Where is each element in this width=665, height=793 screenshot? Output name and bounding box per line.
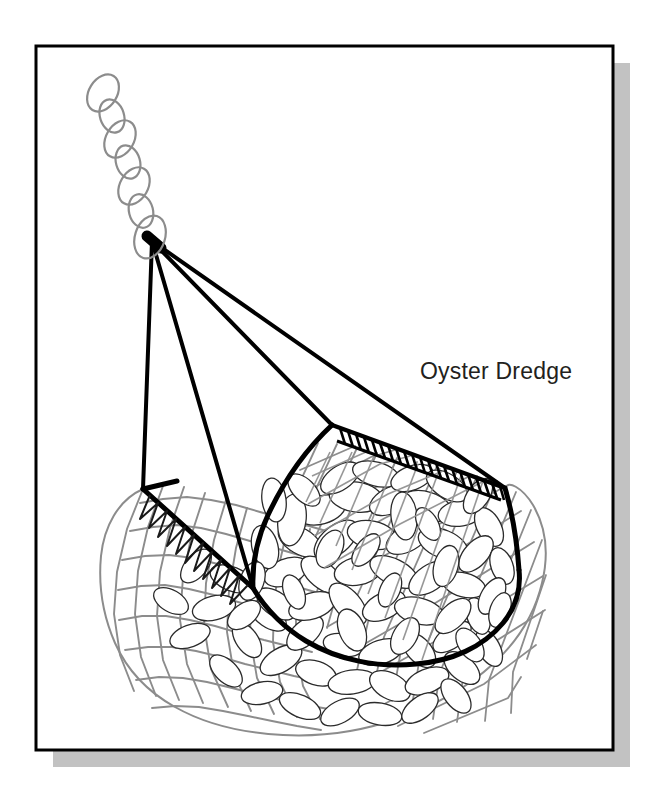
page-title: Oyster Dredge [420, 358, 572, 384]
illustration-root: Oyster Dredge [0, 0, 665, 793]
oyster-dredge-illustration: Oyster Dredge [0, 0, 665, 793]
